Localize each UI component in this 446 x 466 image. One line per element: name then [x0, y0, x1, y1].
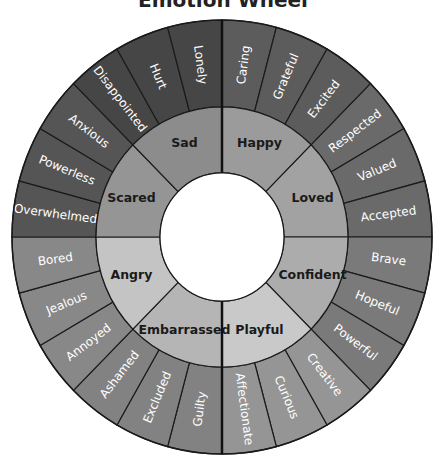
core-emotion-label: Confident	[278, 267, 346, 282]
center-circle	[160, 173, 284, 301]
core-emotion-label: Loved	[291, 190, 333, 205]
core-emotion-label: Angry	[111, 267, 153, 282]
core-emotion-label: Playful	[235, 322, 283, 337]
core-emotion-label: Sad	[171, 135, 197, 150]
core-emotion-label: Embarrassed	[138, 322, 230, 337]
core-emotion-label: Happy	[237, 135, 282, 150]
emotion-wheel: CaringGratefulExcitedRespectedValuedAcce…	[0, 0, 446, 466]
core-emotion-label: Scared	[107, 190, 155, 205]
